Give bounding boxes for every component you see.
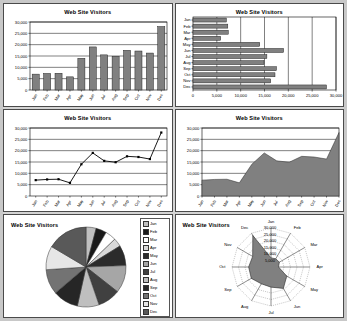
- legend-item[interactable]: Mar: [142, 236, 168, 243]
- category-label: Feb: [42, 92, 50, 101]
- bar[interactable]: [193, 18, 226, 22]
- radar-area: 5,00010,00015,00020,00025,00030,000JanFe…: [219, 219, 323, 315]
- bar[interactable]: [193, 67, 276, 71]
- bar[interactable]: [193, 79, 271, 83]
- bar[interactable]: [32, 74, 39, 90]
- data-point[interactable]: [115, 161, 117, 163]
- axis-tick-label: 15,000: [15, 159, 28, 164]
- bar-chart-title: Web Site Visitors: [176, 9, 344, 15]
- legend-swatch: [143, 221, 149, 227]
- bar[interactable]: [193, 24, 228, 28]
- panel-column-chart[interactable]: Web Site Visitors 05,00010,00015,00020,0…: [3, 3, 173, 107]
- axis-tick-label: 20,000: [282, 93, 295, 98]
- category-label: Nov: [183, 78, 191, 83]
- category-label: Nov: [224, 242, 232, 247]
- category-label: Mar: [183, 30, 191, 35]
- data-point[interactable]: [69, 181, 71, 183]
- legend-item[interactable]: Jan: [142, 220, 168, 227]
- data-point[interactable]: [80, 163, 82, 165]
- pie-chart-legend[interactable]: JanFebMarAprMayJunJulAugSepOctNovDec: [140, 218, 170, 317]
- legend-label: Sep: [150, 286, 157, 290]
- category-label: Oct: [133, 92, 141, 101]
- bar[interactable]: [135, 51, 142, 90]
- bar[interactable]: [193, 30, 228, 34]
- panel-pie-chart[interactable]: Web Site Visitors JanFebMarAprMayJunJulA…: [3, 214, 173, 318]
- legend-item[interactable]: Apr: [142, 244, 168, 251]
- axis-tick-label: 10,000: [15, 170, 28, 175]
- legend-item[interactable]: Dec: [142, 308, 168, 315]
- bar[interactable]: [193, 42, 260, 46]
- legend-item[interactable]: Nov: [142, 300, 168, 307]
- data-point[interactable]: [160, 131, 162, 133]
- category-label: May: [310, 287, 319, 292]
- axis-tick-label: 30,000: [329, 93, 342, 98]
- bar[interactable]: [158, 27, 165, 90]
- bar[interactable]: [78, 58, 85, 90]
- bar[interactable]: [193, 48, 284, 52]
- category-label: Aug: [240, 304, 248, 309]
- plot-area: 05,00010,00015,00020,00025,00030,000JanF…: [182, 17, 342, 98]
- bar[interactable]: [124, 50, 131, 90]
- category-label: Oct: [184, 72, 191, 77]
- panel-area-chart[interactable]: Web Site Visitors 05,00010,00015,00020,0…: [175, 109, 345, 213]
- bar[interactable]: [44, 73, 51, 90]
- panel-line-chart[interactable]: Web Site Visitors 05,00010,00015,00020,0…: [3, 109, 173, 213]
- data-point[interactable]: [137, 156, 139, 158]
- legend-item[interactable]: Sep: [142, 284, 168, 291]
- axis-tick-label: 30,000: [186, 125, 199, 130]
- legend-item[interactable]: May: [142, 252, 168, 259]
- legend-swatch: [143, 261, 149, 267]
- bar[interactable]: [112, 56, 119, 90]
- panel-bar-chart[interactable]: Web Site Visitors 05,00010,00015,00020,0…: [175, 3, 345, 107]
- legend-swatch: [143, 293, 149, 299]
- category-label: Jul: [268, 310, 273, 315]
- legend-item[interactable]: Aug: [142, 276, 168, 283]
- panel-radar-chart[interactable]: Web Site Visitors 5,00010,00015,00020,00…: [175, 214, 345, 318]
- bar[interactable]: [89, 47, 96, 90]
- legend-item[interactable]: Feb: [142, 228, 168, 235]
- category-label: Nov: [145, 198, 153, 208]
- radar-ring-label: 10,000: [263, 252, 276, 257]
- axis-tick-label: 5,000: [17, 76, 28, 81]
- bar[interactable]: [146, 53, 153, 90]
- bar[interactable]: [193, 61, 264, 65]
- legend-label: May: [150, 254, 158, 258]
- column-chart-svg: 05,00010,00015,00020,00025,00030,000JanF…: [4, 4, 172, 107]
- legend-item[interactable]: Jun: [142, 260, 168, 267]
- bar[interactable]: [66, 77, 73, 90]
- category-label: Aug: [183, 60, 191, 65]
- legend-swatch: [143, 229, 149, 235]
- legend-item[interactable]: Oct: [142, 292, 168, 299]
- category-label: Jul: [185, 54, 190, 59]
- category-label: Sep: [122, 198, 130, 207]
- legend-label: Jan: [150, 222, 157, 226]
- data-point[interactable]: [92, 151, 94, 153]
- bar[interactable]: [55, 73, 62, 90]
- data-point[interactable]: [126, 155, 128, 157]
- axis-tick-label: 5,000: [17, 182, 28, 187]
- radar-chart-svg: 5,00010,00015,00020,00025,00030,000JanFe…: [176, 215, 344, 318]
- category-label: Sep: [122, 92, 130, 101]
- category-label: Feb: [209, 198, 217, 207]
- bar[interactable]: [193, 73, 275, 77]
- legend-swatch: [143, 237, 149, 243]
- bar[interactable]: [193, 55, 267, 59]
- axis-tick-label: 25,000: [305, 93, 318, 98]
- category-label: Apr: [65, 93, 73, 102]
- pie-area: [46, 227, 126, 307]
- category-label: Jun: [183, 48, 190, 53]
- bar[interactable]: [193, 36, 221, 40]
- bar[interactable]: [193, 85, 326, 89]
- data-point[interactable]: [46, 178, 48, 180]
- radar-ring-label: 5,000: [264, 258, 275, 263]
- data-point[interactable]: [35, 179, 37, 181]
- legend-swatch: [143, 269, 149, 275]
- legend-item[interactable]: Jul: [142, 268, 168, 275]
- data-point[interactable]: [103, 159, 105, 161]
- category-label: Aug: [110, 198, 118, 207]
- data-point[interactable]: [57, 178, 59, 180]
- bar[interactable]: [101, 55, 108, 90]
- data-point[interactable]: [149, 158, 151, 160]
- category-label: Sep: [183, 66, 191, 71]
- category-label: Sep: [224, 287, 232, 292]
